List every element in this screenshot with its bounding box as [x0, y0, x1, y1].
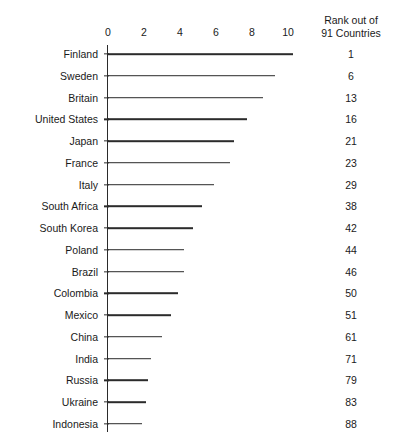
rank-value-poland: 44 [305, 244, 397, 256]
category-label-france: France [65, 157, 98, 169]
category-label-india: India [75, 353, 98, 365]
rank-value-india: 71 [305, 353, 397, 365]
bar-united-states [108, 118, 247, 120]
rank-value-mexico: 51 [305, 309, 397, 321]
category-label-mexico: Mexico [65, 309, 98, 321]
category-label-united-states: United States [35, 113, 98, 125]
y-axis-line [107, 45, 108, 432]
category-label-russia: Russia [66, 374, 98, 386]
rank-value-ukraine: 83 [305, 396, 397, 408]
rank-value-finland: 1 [305, 48, 397, 60]
rank-value-brazil: 46 [305, 266, 397, 278]
category-label-south-korea: South Korea [40, 222, 98, 234]
rank-value-japan: 21 [305, 135, 397, 147]
rank-value-france: 23 [305, 157, 397, 169]
category-label-south-africa: South Africa [41, 200, 98, 212]
category-label-china: China [71, 331, 98, 343]
bar-india [108, 358, 151, 360]
category-label-finland: Finland [64, 48, 98, 60]
category-label-colombia: Colombia [54, 287, 98, 299]
category-label-britain: Britain [68, 92, 98, 104]
bar-france [108, 162, 230, 164]
rank-value-china: 61 [305, 331, 397, 343]
category-label-italy: Italy [79, 179, 98, 191]
rank-value-south-africa: 38 [305, 200, 397, 212]
category-label-sweden: Sweden [60, 70, 98, 82]
category-label-ukraine: Ukraine [62, 396, 98, 408]
bar-south-africa [108, 205, 202, 207]
bar-japan [108, 140, 234, 142]
bar-china [108, 336, 162, 338]
bar-south-korea [108, 227, 193, 229]
bar-colombia [108, 292, 178, 294]
rank-value-colombia: 50 [305, 287, 397, 299]
bar-indonesia [108, 423, 142, 425]
rank-value-sweden: 6 [305, 70, 397, 82]
plot-area: Finland1Sweden6Britain13United States16J… [0, 0, 400, 437]
category-label-indonesia: Indonesia [52, 418, 98, 430]
bar-finland [108, 53, 293, 55]
bar-italy [108, 184, 214, 186]
bar-brazil [108, 271, 184, 273]
category-label-brazil: Brazil [72, 266, 98, 278]
rank-value-italy: 29 [305, 179, 397, 191]
category-label-japan: Japan [69, 135, 98, 147]
bar-sweden [108, 75, 275, 77]
rank-value-britain: 13 [305, 92, 397, 104]
rank-value-indonesia: 88 [305, 418, 397, 430]
bar-britain [108, 97, 263, 99]
bar-ukraine [108, 401, 146, 403]
bar-mexico [108, 314, 171, 316]
rank-value-united-states: 16 [305, 113, 397, 125]
bar-russia [108, 379, 148, 381]
category-label-poland: Poland [65, 244, 98, 256]
rank-value-russia: 79 [305, 374, 397, 386]
rank-value-south-korea: 42 [305, 222, 397, 234]
horizontal-bar-chart: Rank out of 91 Countries 0246810 Finland… [0, 0, 400, 437]
bar-poland [108, 249, 184, 251]
